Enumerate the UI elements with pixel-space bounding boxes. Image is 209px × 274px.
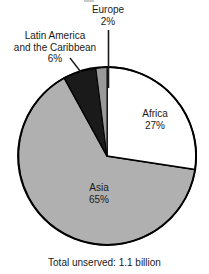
slice-label-asia-name: Asia	[89, 182, 108, 193]
slice-label-europe-name: Europe	[92, 4, 124, 15]
slice-label-europe: Europe 2%	[62, 4, 154, 27]
slice-label-asia-value: 65%	[70, 194, 128, 206]
slice-label-latin-america-line1: Latin America	[25, 30, 86, 41]
pie-chart: Europe 2% Latin America and the Caribbea…	[0, 0, 209, 274]
slice-label-asia: Asia 65%	[70, 182, 128, 205]
slice-label-africa-value: 27%	[126, 120, 184, 132]
chart-caption: Total unserved: 1.1 billion	[0, 257, 209, 269]
slice-label-africa: Africa 27%	[126, 108, 184, 131]
slice-label-africa-name: Africa	[142, 108, 168, 119]
slice-label-europe-value: 2%	[62, 16, 154, 28]
slice-label-latin-america-value: 6%	[0, 53, 110, 65]
slice-label-latin-america-line2: and the Caribbean	[14, 42, 96, 53]
slice-label-latin-america: Latin America and the Caribbean 6%	[0, 30, 110, 65]
